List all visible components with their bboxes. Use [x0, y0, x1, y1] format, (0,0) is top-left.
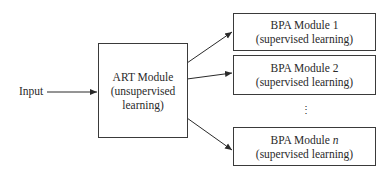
art-module-title: ART Module — [113, 70, 174, 84]
bpa-module-n-title-prefix: BPA Module — [271, 134, 333, 146]
bpa-module-n-variable: n — [333, 134, 339, 146]
arrow-art-to-bpan — [187, 118, 232, 150]
bpa-module-2-box: BPA Module 2 (supervised learning) — [233, 55, 376, 95]
bpa-module-1-subtitle: (supervised learning) — [256, 32, 353, 46]
arrow-art-to-bpa1 — [187, 32, 232, 63]
arrow-art-to-bpa2 — [187, 73, 232, 79]
bpa-module-n-title: BPA Module n — [271, 133, 339, 147]
input-label: Input — [19, 85, 43, 97]
bpa-module-n-box: BPA Module n (supervised learning) — [233, 127, 376, 166]
art-module-subtitle-2: learning) — [122, 98, 164, 112]
vertical-ellipsis: ⋮ — [301, 104, 311, 115]
art-module-subtitle-1: (unsupervised — [111, 84, 176, 98]
bpa-module-1-box: BPA Module 1 (supervised learning) — [233, 13, 376, 51]
art-module-box: ART Module (unsupervised learning) — [98, 43, 188, 138]
bpa-module-2-subtitle: (supervised learning) — [256, 75, 353, 89]
bpa-module-n-subtitle: (supervised learning) — [256, 147, 353, 161]
bpa-module-2-title: BPA Module 2 — [271, 61, 339, 75]
bpa-module-1-title: BPA Module 1 — [271, 18, 339, 32]
